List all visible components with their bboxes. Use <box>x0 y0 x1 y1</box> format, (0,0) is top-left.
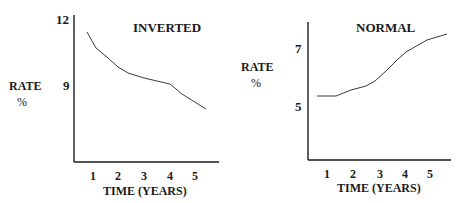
normal-xtick-4: 4 <box>402 167 408 181</box>
inverted-xtick-3: 3 <box>141 169 147 183</box>
normal-ylabel-rate: RATE <box>241 60 273 74</box>
normal-xtick-3: 3 <box>377 167 383 181</box>
normal-curve <box>317 34 447 96</box>
inverted-title: INVERTED <box>133 20 201 35</box>
inverted-xlabel: TIME (YEARS) <box>103 184 187 198</box>
normal-ylabel-percent: % <box>251 76 261 90</box>
normal-xlabel: TIME (YEARS) <box>337 181 421 195</box>
inverted-xtick-1: 1 <box>90 169 96 183</box>
inverted-xtick-4: 4 <box>167 169 173 183</box>
inverted-ytick-12: 12 <box>56 12 69 27</box>
normal-chart: NORMAL 7 5 RATE % 1 2 3 4 5 TIME (YEARS) <box>241 20 451 195</box>
normal-xtick-2: 2 <box>350 167 356 181</box>
yield-curve-figure: INVERTED 12 9 RATE % 1 2 3 4 5 TIME (YEA… <box>0 0 463 203</box>
normal-xtick-1: 1 <box>324 167 330 181</box>
inverted-ylabel-rate: RATE <box>9 79 41 93</box>
inverted-ylabel-percent: % <box>17 95 27 109</box>
normal-title: NORMAL <box>356 20 416 35</box>
inverted-xtick-5: 5 <box>192 169 198 183</box>
normal-xtick-5: 5 <box>427 167 433 181</box>
inverted-chart: INVERTED 12 9 RATE % 1 2 3 4 5 TIME (YEA… <box>9 12 219 198</box>
inverted-ytick-9: 9 <box>63 78 70 93</box>
inverted-xtick-2: 2 <box>115 169 121 183</box>
normal-ytick-5: 5 <box>295 99 302 114</box>
normal-ytick-7: 7 <box>295 41 302 56</box>
inverted-curve <box>87 32 206 109</box>
